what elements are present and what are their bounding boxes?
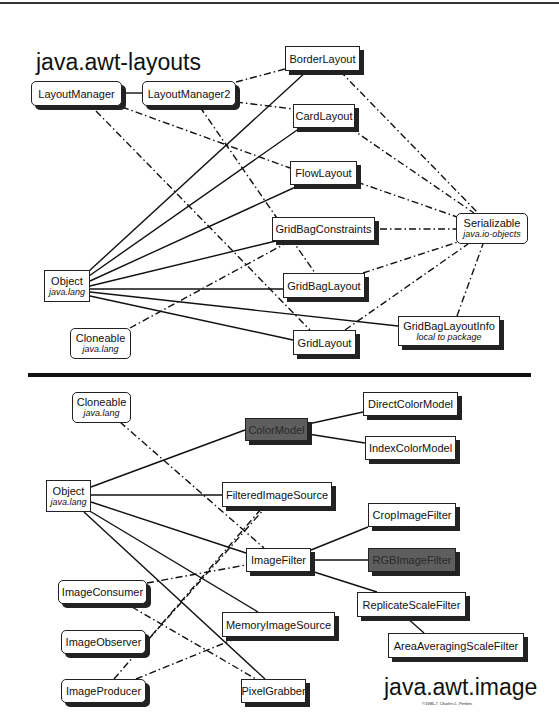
node-cloneable[interactable]: Cloneable java.lang bbox=[70, 328, 131, 359]
node-label: DirectColorModel bbox=[368, 398, 453, 410]
node-imageobserver[interactable]: ImageObserver bbox=[61, 630, 146, 654]
node-indexcolormodel[interactable]: IndexColorModel bbox=[365, 436, 456, 460]
node-layoutmanager[interactable]: LayoutManager bbox=[31, 81, 122, 106]
node-label: FlowLayout bbox=[295, 167, 351, 179]
node-imageproducer[interactable]: ImageProducer bbox=[61, 679, 146, 703]
node-label: AreaAveragingScaleFilter bbox=[394, 640, 519, 652]
node-label: Object bbox=[53, 485, 85, 497]
node-flowlayout[interactable]: FlowLayout bbox=[290, 161, 357, 185]
node-object[interactable]: Object java.lang bbox=[44, 270, 90, 302]
node-cropimagefilter[interactable]: CropImageFilter bbox=[368, 503, 456, 527]
node-package: java.lang bbox=[49, 287, 85, 298]
edge-cardlayout-serializable bbox=[350, 128, 474, 213]
edge-replicate-areaaveraging bbox=[406, 617, 424, 633]
node-label: Serializable bbox=[464, 217, 521, 229]
edge-lm2-cardlayout bbox=[236, 102, 293, 109]
title-java-awt-image: java.awt.image bbox=[384, 675, 537, 699]
node-label: GridBagLayoutInfo bbox=[403, 320, 495, 332]
title-java-awt-layouts: java.awt-layouts bbox=[36, 50, 201, 74]
edge-object-cardlayout bbox=[89, 128, 300, 276]
node-replicatescalefilter[interactable]: ReplicateScaleFilter bbox=[357, 592, 466, 617]
node-gridbaglayout[interactable]: GridBagLayout bbox=[283, 273, 365, 298]
edge-imageproducer-memoryimagesource bbox=[136, 640, 232, 679]
node-label: GridBagLayout bbox=[287, 280, 360, 292]
node-label: LayoutManager bbox=[38, 88, 114, 100]
node-label: CropImageFilter bbox=[373, 509, 452, 521]
edge-colormodel-directcolormodel bbox=[308, 412, 363, 424]
node-label: CardLayout bbox=[296, 110, 353, 122]
edge-imagefilter-cropimagefilter bbox=[311, 527, 368, 550]
node-label: ImageProducer bbox=[66, 685, 141, 697]
node-object-image[interactable]: Object java.lang bbox=[46, 480, 91, 512]
node-package: local to package bbox=[416, 332, 481, 343]
node-imagefilter[interactable]: ImageFilter bbox=[246, 548, 311, 572]
edge-borderlayout-serializable bbox=[340, 71, 478, 213]
edge-object-flowlayout bbox=[90, 185, 300, 281]
edge-flowlayout-serializable bbox=[357, 182, 460, 218]
node-label: LayoutManager2 bbox=[148, 88, 231, 100]
node-rgbimagefilter[interactable]: RGBImageFilter bbox=[368, 548, 456, 572]
node-label: ReplicateScaleFilter bbox=[363, 599, 461, 611]
edge-object-imagefilter bbox=[91, 502, 246, 553]
node-imageconsumer[interactable]: ImageConsumer bbox=[58, 580, 147, 604]
node-serializable[interactable]: Serializable java.io-objects bbox=[456, 213, 528, 244]
node-cardlayout[interactable]: CardLayout bbox=[293, 104, 355, 128]
edge-gridbaglayout-serializable bbox=[363, 242, 458, 273]
node-gridlayout[interactable]: GridLayout bbox=[293, 330, 356, 355]
node-label: BorderLayout bbox=[289, 53, 355, 65]
node-label: GridLayout bbox=[298, 337, 352, 349]
node-cloneable-image[interactable]: Cloneable java.lang bbox=[72, 392, 131, 423]
edge-colormodel-indexcolormodel bbox=[308, 434, 365, 443]
node-package: java.lang bbox=[50, 497, 86, 508]
node-label: PixelGrabber bbox=[241, 685, 305, 697]
node-label: ImageFilter bbox=[251, 554, 306, 566]
node-areaaveragingscalefilter[interactable]: AreaAveragingScaleFilter bbox=[388, 633, 524, 658]
edge-object-colormodel bbox=[91, 430, 245, 487]
copyright-notice: ©1995-7, Charles L. Perkins bbox=[422, 701, 472, 706]
node-package: java.io-objects bbox=[463, 229, 521, 240]
node-package: java.lang bbox=[82, 344, 118, 355]
node-label: ImageConsumer bbox=[62, 586, 143, 598]
node-borderlayout[interactable]: BorderLayout bbox=[285, 46, 360, 71]
edge-lm2-borderlayout bbox=[236, 69, 285, 82]
node-label: ImageObserver bbox=[66, 636, 142, 648]
edge-imagefilter-replicatescalefilter bbox=[311, 571, 377, 592]
node-label: IndexColorModel bbox=[369, 442, 452, 454]
node-memoryimagesource[interactable]: MemoryImageSource bbox=[222, 612, 335, 637]
node-package: java.lang bbox=[83, 408, 119, 419]
section-divider bbox=[28, 373, 531, 377]
node-label: Object bbox=[51, 275, 83, 287]
node-label: MemoryImageSource bbox=[226, 619, 331, 631]
node-gridbaglayoutinfo[interactable]: GridBagLayoutInfo local to package bbox=[398, 316, 500, 346]
edge-lm2-gridbaglayout bbox=[200, 107, 315, 273]
node-colormodel[interactable]: ColorModel bbox=[245, 418, 308, 441]
node-label: Cloneable bbox=[76, 332, 126, 344]
node-label: RGBImageFilter bbox=[373, 554, 452, 566]
node-label: ColorModel bbox=[248, 424, 304, 436]
node-label: FilteredImageSource bbox=[226, 489, 328, 501]
node-gridbagconstraints[interactable]: GridBagConstraints bbox=[272, 217, 375, 241]
edge-gridbaglayoutinfo-serializable bbox=[457, 244, 483, 316]
edge-imageconsumer-imagefilter bbox=[147, 565, 246, 583]
node-label: GridBagConstraints bbox=[276, 223, 372, 235]
node-filteredimagesource[interactable]: FilteredImageSource bbox=[222, 482, 332, 507]
node-pixelgrabber[interactable]: PixelGrabber bbox=[241, 679, 306, 703]
node-label: Cloneable bbox=[77, 396, 127, 408]
node-layoutmanager2[interactable]: LayoutManager2 bbox=[142, 81, 236, 106]
node-directcolormodel[interactable]: DirectColorModel bbox=[363, 392, 458, 416]
